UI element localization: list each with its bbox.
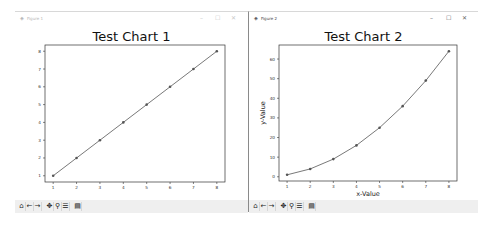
forward-arrow-icon: → <box>35 202 41 210</box>
x-tick-label: 8 <box>215 185 218 190</box>
data-point <box>192 68 195 71</box>
pan-button[interactable]: ✥ <box>46 202 54 211</box>
configure-subplots-button[interactable]: ☰ <box>62 202 70 211</box>
home-icon: ⌂ <box>19 202 23 210</box>
save-button[interactable]: ▤ <box>308 202 316 211</box>
home-button[interactable]: ⌂ <box>18 202 26 211</box>
data-point <box>424 79 427 82</box>
configure-subplots-icon: ☰ <box>296 202 302 210</box>
back-arrow-button[interactable]: ← <box>260 202 268 211</box>
y-tick-label: 6 <box>38 84 41 89</box>
x-axis-label: x-Value <box>356 190 380 198</box>
y-tick-label: 7 <box>38 67 41 72</box>
y-tick-label: 0 <box>272 174 275 179</box>
back-arrow-icon: ← <box>27 202 33 210</box>
y-tick-label: 20 <box>270 135 276 140</box>
x-tick-label: 2 <box>309 184 312 189</box>
data-point <box>401 105 404 108</box>
configure-subplots-button[interactable]: ☰ <box>296 202 304 211</box>
y-tick-label: 60 <box>270 57 276 62</box>
x-tick-label: 8 <box>448 184 451 189</box>
y-tick-label: 2 <box>38 155 41 160</box>
data-point <box>145 103 148 106</box>
y-tick-label: 10 <box>270 155 276 160</box>
save-icon: ▤ <box>74 202 81 210</box>
x-tick-label: 5 <box>378 184 381 189</box>
pan-icon: ✥ <box>281 202 287 210</box>
y-tick-label: 40 <box>270 96 276 101</box>
plot-area[interactable]: 123456780102030405060x-Valuey-Value <box>249 12 479 200</box>
data-point <box>169 86 172 89</box>
y-tick-label: 8 <box>38 49 41 54</box>
data-point <box>355 144 358 147</box>
x-tick-label: 4 <box>355 184 358 189</box>
x-tick-label: 3 <box>332 184 335 189</box>
data-point <box>286 174 289 177</box>
back-arrow-button[interactable]: ← <box>26 202 34 211</box>
data-point <box>52 174 55 177</box>
data-point <box>332 158 335 161</box>
plot-area[interactable]: 1234567812345678 <box>15 12 248 200</box>
x-tick-label: 7 <box>424 184 427 189</box>
x-tick-label: 6 <box>401 184 404 189</box>
y-axis-label: y-Value <box>259 101 267 125</box>
zoom-button[interactable]: ⚲ <box>288 202 296 211</box>
x-tick-label: 7 <box>192 185 195 190</box>
x-tick-label: 6 <box>169 185 172 190</box>
configure-subplots-icon: ☰ <box>62 202 68 210</box>
data-point <box>216 50 219 53</box>
x-tick-label: 3 <box>99 185 102 190</box>
figure-2-window: ◈ Figure 2 – ☐ ✕ Test Chart 2 1234567801… <box>248 11 478 212</box>
zoom-icon: ⚲ <box>289 202 294 210</box>
y-tick-label: 4 <box>38 120 41 125</box>
x-tick-label: 1 <box>52 185 55 190</box>
back-arrow-icon: ← <box>261 202 267 210</box>
y-tick-label: 50 <box>270 76 276 81</box>
pan-icon: ✥ <box>47 202 53 210</box>
x-tick-label: 1 <box>286 184 289 189</box>
y-tick-label: 3 <box>38 138 41 143</box>
save-icon: ▤ <box>308 202 315 210</box>
home-button[interactable]: ⌂ <box>252 202 260 211</box>
x-tick-label: 4 <box>122 185 125 190</box>
forward-arrow-button[interactable]: → <box>268 202 276 211</box>
forward-arrow-button[interactable]: → <box>34 202 42 211</box>
data-point <box>448 50 451 53</box>
x-tick-label: 5 <box>145 185 148 190</box>
data-point <box>309 168 312 171</box>
zoom-button[interactable]: ⚲ <box>54 202 62 211</box>
zoom-icon: ⚲ <box>55 202 60 210</box>
axes-frame <box>279 45 457 181</box>
navigation-toolbar: ⌂←→✥⚲☰▤ <box>15 200 248 213</box>
home-icon: ⌂ <box>253 202 257 210</box>
data-point <box>378 126 381 129</box>
y-tick-label: 30 <box>270 115 276 120</box>
data-point <box>99 139 102 142</box>
x-tick-label: 2 <box>75 185 78 190</box>
save-button[interactable]: ▤ <box>74 202 82 211</box>
forward-arrow-icon: → <box>269 202 275 210</box>
figure-1-window: ◈ Figure 1 – ☐ ✕ Test Chart 1 1234567812… <box>15 11 248 212</box>
data-point <box>122 121 125 124</box>
pan-button[interactable]: ✥ <box>280 202 288 211</box>
navigation-toolbar: ⌂←→✥⚲☰▤ <box>249 200 478 213</box>
y-tick-label: 1 <box>38 173 41 178</box>
y-tick-label: 5 <box>38 102 41 107</box>
data-point <box>75 157 78 160</box>
